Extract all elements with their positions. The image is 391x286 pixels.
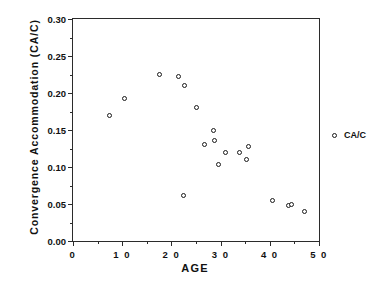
- x-axis-minor-tick: [196, 241, 197, 244]
- x-axis-tick: [171, 241, 172, 246]
- x-axis-tick: [73, 241, 74, 246]
- y-axis-tick-label: 0.25: [48, 51, 67, 62]
- y-axis-minor-tick: [70, 149, 73, 150]
- data-point: [289, 202, 294, 207]
- data-point: [202, 142, 207, 147]
- scatter-chart-figure: Convergence Accommodation (CA/C) 0.000.0…: [0, 0, 391, 286]
- y-axis-tick-label: 0.00: [48, 236, 67, 247]
- x-axis-minor-tick: [294, 241, 295, 244]
- y-axis-tick-label: 0.05: [48, 199, 67, 210]
- x-axis-minor-tick: [98, 241, 99, 244]
- y-axis-tick-label: 0.15: [48, 125, 67, 136]
- data-point: [237, 150, 242, 155]
- x-axis-minor-tick: [147, 241, 148, 244]
- data-point: [157, 72, 162, 77]
- data-point: [194, 105, 199, 110]
- data-point: [246, 144, 251, 149]
- data-point: [176, 74, 181, 79]
- y-axis-tick: [68, 130, 73, 131]
- y-axis-tick-label: 0.30: [48, 14, 67, 25]
- data-point: [223, 150, 228, 155]
- x-axis-title: AGE: [72, 262, 318, 274]
- x-axis-tick-label: 4 0: [261, 249, 279, 260]
- data-point: [270, 198, 275, 203]
- chart-legend: CA/C: [332, 130, 366, 140]
- x-axis-tick: [319, 241, 320, 246]
- data-point: [302, 209, 307, 214]
- y-axis-tick: [68, 56, 73, 57]
- data-point: [212, 138, 217, 143]
- x-axis-tick-label: 0: [70, 249, 77, 260]
- y-axis-tick: [68, 167, 73, 168]
- legend-label: CA/C: [344, 130, 366, 140]
- y-axis-tick: [68, 93, 73, 94]
- y-axis-minor-tick: [70, 75, 73, 76]
- y-axis-tick: [68, 19, 73, 20]
- y-axis-minor-tick: [70, 112, 73, 113]
- x-axis-minor-tick: [245, 241, 246, 244]
- legend-marker-open-circle: [332, 133, 337, 138]
- y-axis-title: Convergence Accommodation (CA/C): [26, 7, 42, 247]
- y-axis-tick-label: 0.10: [48, 162, 67, 173]
- data-point: [216, 162, 221, 167]
- data-point: [107, 113, 112, 118]
- x-axis-tick: [221, 241, 222, 246]
- x-axis-tick: [122, 241, 123, 246]
- data-point: [244, 157, 249, 162]
- plot-area: 0.000.050.100.150.200.250.3001 02 03 04 …: [72, 18, 320, 242]
- data-point: [182, 83, 187, 88]
- x-axis-tick-label: 5 0: [310, 249, 328, 260]
- y-axis-minor-tick: [70, 38, 73, 39]
- y-axis-minor-tick: [70, 223, 73, 224]
- x-axis-tick-label: 1 0: [113, 249, 131, 260]
- data-point: [211, 128, 216, 133]
- data-point: [122, 96, 127, 101]
- x-axis-tick-label: 2 0: [163, 249, 181, 260]
- y-axis-tick-label: 0.20: [48, 88, 67, 99]
- x-axis-tick-label: 3 0: [212, 249, 230, 260]
- y-axis-tick: [68, 204, 73, 205]
- y-axis-minor-tick: [70, 186, 73, 187]
- x-axis-tick: [270, 241, 271, 246]
- data-point: [181, 193, 186, 198]
